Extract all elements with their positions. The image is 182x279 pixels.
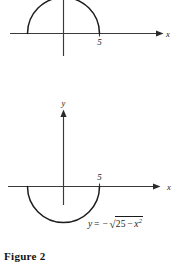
upper-panel [10, 0, 164, 56]
radicand-operator: − [126, 219, 135, 229]
upper-x-axis-arrowhead [156, 30, 164, 36]
figure-caption: Figure 2 [4, 250, 46, 262]
lower-panel [8, 110, 161, 223]
radicand-constant: 25 [116, 219, 126, 229]
radicand-exponent: 2 [139, 217, 142, 224]
lower-y-axis-arrowhead [60, 110, 66, 118]
lower-x-tick-label-5: 5 [97, 172, 102, 182]
figure-svg: x 5 y x 5 [0, 0, 182, 279]
equation-radical-group: √25−x2 [110, 216, 144, 230]
equation-equals-sign: = [92, 219, 101, 229]
figure-container: x 5 y x 5 y=−√25−x2 Figure 2 [0, 0, 182, 279]
upper-x-tick-label-5: 5 [97, 37, 102, 47]
equation-annotation: y=−√25−x2 [88, 216, 143, 230]
lower-x-axis-label: x [166, 182, 171, 192]
lower-y-axis-label: y [61, 98, 66, 108]
upper-x-axis-label: x [165, 29, 170, 39]
equation-negation-sign: − [101, 219, 110, 229]
lower-x-axis-arrowhead [153, 183, 161, 189]
equation-radicand: 25−x2 [115, 216, 143, 229]
